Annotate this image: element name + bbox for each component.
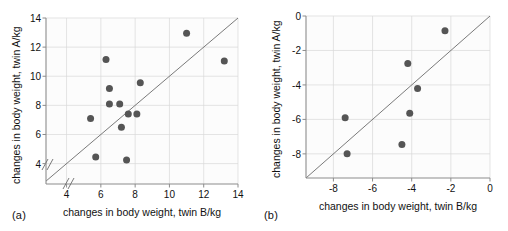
- panel-b-x-tick-label: -2: [446, 183, 455, 194]
- panel-a-x-tick-label: 12: [198, 189, 209, 200]
- panel-a: changes in body weight, twin A/kg change…: [0, 0, 254, 231]
- panel-b-y-tick-label: -6: [280, 114, 301, 125]
- panel-a-plot: [0, 0, 254, 231]
- panel-b-x-axis-label: changes in body weight, twin B/kg: [319, 200, 477, 212]
- panel-a-x-tick-label: 6: [98, 189, 104, 200]
- panel-a-y-tick-label: 10: [20, 71, 41, 82]
- panel-a-y-tick-label: 4: [20, 158, 41, 169]
- panel-b-y-tick-label: -4: [280, 79, 301, 90]
- panel-a-x-tick-label: 8: [132, 189, 138, 200]
- panel-b-y-tick-label: 0: [280, 11, 301, 22]
- panel-b-y-tick-label: -2: [280, 45, 301, 56]
- panel-a-y-tick-label: 8: [20, 100, 41, 111]
- panel-a-x-tick-label: 10: [164, 189, 175, 200]
- panel-a-y-tick-label: 14: [20, 13, 41, 24]
- panel-a-y-tick-label: 6: [20, 129, 41, 140]
- panel-b-x-tick-label: -4: [407, 183, 416, 194]
- panel-a-x-tick-label: 4: [64, 189, 70, 200]
- panel-a-label: (a): [12, 209, 26, 221]
- twin-weight-scatter-figure: changes in body weight, twin A/kg change…: [0, 0, 508, 231]
- panel-b: changes in body weight, twin A/kg change…: [254, 0, 508, 231]
- panel-b-x-tick-label: -8: [329, 183, 338, 194]
- panel-b-x-tick-label: 0: [487, 183, 493, 194]
- panel-a-y-tick-label: 12: [20, 42, 41, 53]
- panel-b-label: (b): [264, 209, 278, 221]
- panel-b-x-tick-label: -6: [368, 183, 377, 194]
- panel-a-x-axis-label: changes in body weight, twin B/kg: [63, 206, 221, 218]
- panel-b-y-tick-label: -8: [280, 148, 301, 159]
- panel-a-x-tick-label: 14: [232, 189, 243, 200]
